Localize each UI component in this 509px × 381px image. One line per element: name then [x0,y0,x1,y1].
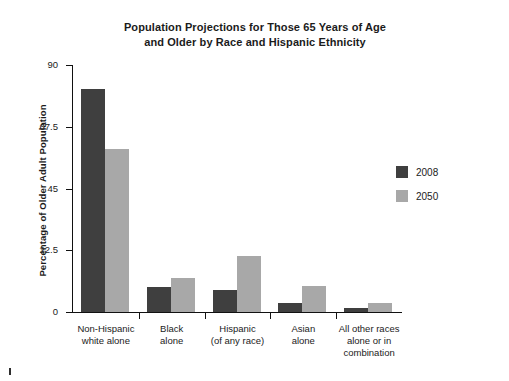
chart-title: Population Projections for Those 65 Year… [60,20,450,50]
x-category-label-line: All other races [328,323,410,335]
chart-title-line-2: and Older by Race and Hispanic Ethnicity [60,35,450,50]
y-tick-label: 45 [14,184,58,194]
bar-2050-1[interactable] [171,278,195,312]
x-category-label-line: combination [328,347,410,359]
bar-2008-0[interactable] [81,89,105,312]
bar-2050-2[interactable] [237,256,261,312]
bar-2008-4[interactable] [344,308,368,312]
y-tick-4: 90 [0,65,72,66]
bar-2008-2[interactable] [213,290,237,312]
chart-legend: 2008 2050 [396,160,438,208]
bar-group [270,65,336,312]
y-tick-mark [66,127,72,128]
x-tick-mark [270,313,271,319]
legend-label-2008: 2008 [416,167,438,178]
x-axis-line [72,312,402,313]
bar-2050-4[interactable] [368,303,392,312]
legend-item-2008[interactable]: 2008 [396,160,438,184]
legend-swatch-2050 [396,190,408,202]
y-tick-mark [66,65,72,66]
y-tick-label: 90 [14,60,58,70]
x-tick-mark [205,313,206,319]
y-tick-0: 0 [0,312,72,313]
bar-2008-3[interactable] [278,303,302,312]
bar-2050-3[interactable] [302,286,326,312]
plot-area [73,65,402,312]
y-tick-mark [66,312,72,313]
x-tick-mark [139,313,140,319]
chart-figure: Population Projections for Those 65 Year… [0,0,509,381]
bar-group [139,65,205,312]
legend-swatch-2008 [396,166,408,178]
bar-2050-0[interactable] [105,149,129,312]
bar-group [205,65,271,312]
y-tick-3: 67.5 [0,127,72,128]
y-tick-1: 22.5 [0,250,72,251]
y-tick-mark [66,250,72,251]
scan-artifact-mark [9,368,11,375]
bar-group [73,65,139,312]
legend-item-2050[interactable]: 2050 [396,184,438,208]
x-tick-mark [336,313,337,319]
y-tick-label: 67.5 [14,122,58,132]
x-category-label-line: alone or in [328,335,410,347]
bar-group [336,65,402,312]
legend-label-2050: 2050 [416,191,438,202]
y-tick-mark [66,189,72,190]
y-tick-label: 22.5 [14,245,58,255]
y-tick-label: 0 [14,307,58,317]
bar-2008-1[interactable] [147,287,171,312]
chart-title-line-1: Population Projections for Those 65 Year… [60,20,450,35]
y-tick-2: 45 [0,189,72,190]
x-category-label-4: All other racesalone or incombination [328,323,410,359]
